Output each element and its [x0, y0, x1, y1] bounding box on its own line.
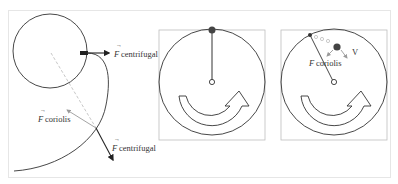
- center-pivot: [209, 79, 214, 84]
- coriolis-label: coriolis: [316, 58, 342, 68]
- vector-arrow-icon: →: [116, 42, 122, 48]
- vector-arrow-icon: →: [40, 107, 46, 113]
- centrifugal-arrow-bottom: [96, 128, 113, 160]
- f-symbol-coriolis: F: [37, 114, 44, 124]
- rotating-circle: [13, 14, 87, 88]
- ghost-path: [314, 35, 329, 42]
- vector-arrow-icon: →: [114, 136, 120, 142]
- velocity-label: V: [352, 47, 359, 57]
- center-pivot: [331, 79, 336, 84]
- coriolis-diagram: F → centrifugal F → coriolis F → centrif…: [0, 0, 398, 184]
- f-symbol-bottom: F: [111, 143, 118, 153]
- start-point: [308, 33, 312, 37]
- centrifugal-label-top: centrifugal: [121, 49, 158, 59]
- f-symbol-top: F: [113, 49, 120, 59]
- centrifugal-label-bottom: centrifugal: [119, 143, 156, 153]
- panel-rotating-disc-moving: V F coriolis: [281, 29, 387, 140]
- ball: [209, 27, 216, 34]
- panel-trajectory: F → centrifugal F → coriolis F → centrif…: [13, 14, 158, 171]
- object-block: [80, 51, 88, 55]
- panel-rotating-disc-start: [159, 27, 265, 141]
- rotation-arrow-icon: [179, 91, 249, 126]
- rotation-arrow-icon: [301, 91, 371, 126]
- coriolis-arrow: [327, 50, 333, 56]
- velocity-arrow: [341, 50, 347, 58]
- coriolis-arrow: [67, 110, 96, 128]
- coriolis-label: coriolis: [45, 114, 71, 124]
- ball: [333, 43, 340, 50]
- f-symbol: F: [308, 58, 315, 68]
